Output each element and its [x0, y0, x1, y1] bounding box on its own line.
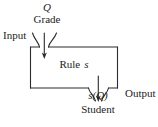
input-brace-left-curve: [33, 33, 40, 47]
rule-variable: s: [84, 58, 88, 70]
grade-label: Grade: [25, 14, 69, 25]
input-brace-right-curve: [49, 33, 57, 47]
rule-word: Rule: [59, 58, 80, 70]
rule-diagram: Q Grade Input Rules s(Q) Student Output: [0, 0, 158, 127]
rule-box-label: Rules: [30, 59, 118, 70]
question-label: Q: [36, 2, 58, 13]
output-label: Output: [125, 88, 156, 99]
student-label: Student: [72, 104, 124, 115]
student-score-label: s(Q): [78, 90, 118, 101]
input-label: Input: [3, 30, 26, 41]
